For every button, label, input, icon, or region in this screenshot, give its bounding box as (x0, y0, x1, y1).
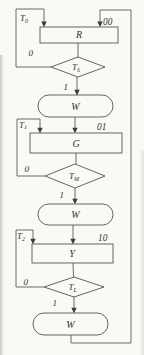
arrowhead-feedback-into-R (97, 22, 102, 28)
arrowhead-W2-into-Y (70, 239, 75, 245)
state-box-R-label: R (75, 29, 82, 40)
section-red-state: T0 00 R TS 0 1 W (16, 9, 118, 133)
decision-TL-label: TL (69, 282, 78, 293)
branch-0-label-TM: 0 (25, 164, 30, 174)
wait-box-W1-label: W (71, 101, 81, 112)
arrowhead-W1-into-G (72, 128, 77, 134)
state-code-00: 00 (103, 17, 113, 27)
wait-box-W2-label: W (71, 209, 81, 220)
state-box-Y-label: Y (69, 248, 76, 259)
timer-label-T0: T0 (20, 13, 28, 24)
decision-TL-sub: L (73, 287, 78, 293)
branch-0-label-TL: 0 (24, 277, 29, 287)
connector-global-feedback (71, 10, 131, 343)
wait-box-W3-label: W (66, 319, 76, 330)
section-green-state: T1 01 G TM 0 1 W (17, 119, 122, 244)
branch-1-label-TL: 1 (53, 298, 58, 308)
connector-Y-to-TL (73, 263, 74, 277)
scanned-flowchart-page: T0 00 R TS 0 1 W (0, 0, 144, 355)
timer-T0-sub: 0 (25, 18, 28, 24)
timer-T2-sub: 2 (22, 236, 25, 242)
arrowhead-t1-into-G (37, 128, 42, 134)
timer-label-T2: T2 (17, 231, 25, 242)
branch-1-label-TS: 1 (64, 82, 69, 92)
timer-T1-sub: 1 (24, 124, 27, 130)
branch-1-label-TM: 1 (60, 190, 65, 200)
branch-0-label-TS: 0 (29, 48, 34, 58)
timer-label-T1: T1 (19, 120, 27, 131)
arrowhead-into-W2 (72, 199, 77, 205)
decision-TM-label: TM (69, 171, 80, 182)
state-box-G-label: G (72, 138, 79, 149)
state-code-10: 10 (98, 233, 108, 243)
decision-TS-label: TS (72, 62, 80, 73)
decision-TS-sub: S (77, 67, 80, 73)
arrowhead-into-W3 (71, 308, 76, 314)
flowchart-canvas: T0 00 R TS 0 1 W (0, 0, 144, 355)
state-code-01: 01 (97, 122, 106, 132)
decision-TM-sub: M (73, 176, 80, 182)
arrowhead-t0-into-R (41, 22, 46, 28)
arrowhead-t2-into-Y (30, 239, 35, 245)
